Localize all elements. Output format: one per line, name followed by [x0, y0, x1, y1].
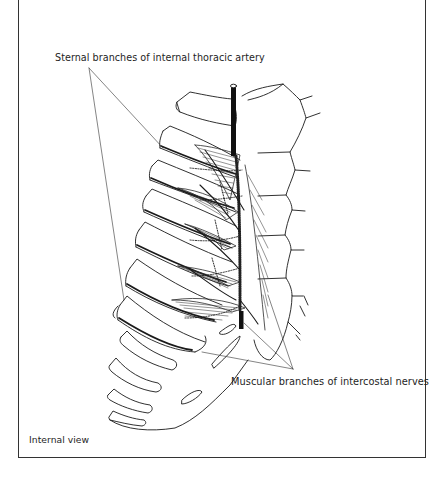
transversus-thoracis-muscle [172, 145, 268, 330]
leader-line-sternal-lower [89, 68, 124, 300]
costal-cartilages [176, 92, 236, 126]
leader-line-sternal-upper [89, 68, 163, 148]
thoracic-wall-illustration [0, 0, 439, 479]
nerve-branches [188, 150, 258, 324]
muscular-branches-label: Muscular branches of intercostal nerves [231, 376, 429, 387]
view-caption: Internal view [29, 434, 89, 445]
ribs [117, 126, 240, 352]
leader-lines [89, 68, 293, 369]
sternal-branches-label: Sternal branches of internal thoracic ar… [55, 52, 265, 63]
